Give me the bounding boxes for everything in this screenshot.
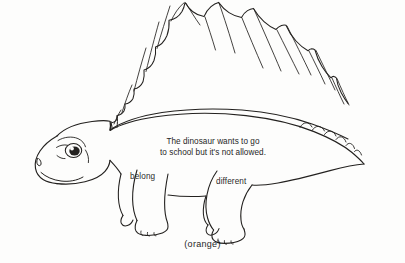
- leg-label-different: different: [216, 177, 246, 186]
- leg-label-belong: belong: [130, 172, 155, 181]
- dinosaur-illustration: [0, 0, 405, 263]
- color-caption: (orange): [0, 239, 405, 249]
- worksheet-sentence: The dinosaur wants to go to school but i…: [138, 136, 288, 159]
- worksheet-page: The dinosaur wants to go to school but i…: [0, 0, 405, 263]
